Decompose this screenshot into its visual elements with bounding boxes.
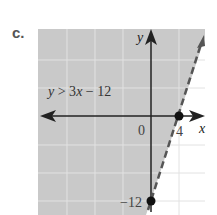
x-intercept-label: 4 bbox=[176, 124, 183, 139]
x-axis-label: x bbox=[198, 121, 206, 136]
point-x-intercept bbox=[175, 112, 184, 121]
y-axis-label: y bbox=[135, 30, 144, 45]
graph: y x 0 4 −12 y > 3x − 12 bbox=[0, 0, 217, 215]
origin-label: 0 bbox=[138, 123, 145, 138]
point-y-intercept bbox=[147, 197, 156, 206]
inequality-label: y > 3x − 12 bbox=[46, 84, 111, 99]
y-intercept-label: −12 bbox=[120, 195, 142, 210]
